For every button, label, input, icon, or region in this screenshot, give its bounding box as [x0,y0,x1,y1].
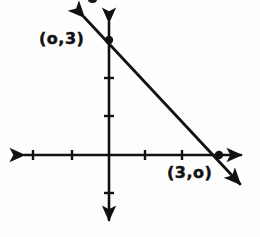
marked-points [105,36,223,159]
graph-figure: (o,3) (3,o) [0,0,260,237]
point-marker-x-intercept [215,151,223,159]
point-marker-y-intercept [105,36,113,44]
point-label-x-intercept: (3,o) [167,165,212,181]
point-label-y-intercept: (o,3) [39,31,84,47]
y-axis [104,22,114,220]
